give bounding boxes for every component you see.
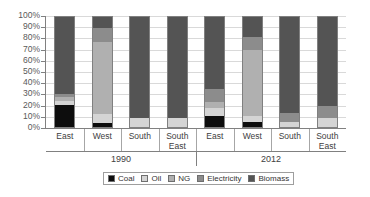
bar-series-container [46, 16, 346, 128]
legend-label: NG [178, 174, 190, 183]
category-label-text: West [243, 131, 262, 141]
y-axis-tick [41, 38, 45, 39]
bar-segment-biomass[interactable] [168, 17, 187, 118]
bar-segment-biomass[interactable] [130, 17, 149, 118]
stacked-bar-chart: 0%10%20%30%40%50%60%70%80%90%100% EastWe… [0, 0, 370, 197]
bar-slot [159, 16, 197, 128]
y-axis-tick-label: 80% [0, 33, 40, 42]
bar-slot [234, 16, 272, 128]
y-axis-tick-label: 20% [0, 101, 40, 110]
bar-segment-electricity[interactable] [318, 106, 337, 118]
y-axis-tick-label: 100% [0, 11, 40, 20]
bar-segment-biomass[interactable] [205, 17, 224, 89]
category-label-text: South [129, 131, 151, 141]
bar-segment-ng[interactable] [205, 102, 224, 109]
stacked-bar[interactable] [54, 16, 75, 128]
category-separator [196, 129, 197, 151]
category-label: South [271, 129, 309, 153]
legend-label: Oil [151, 174, 161, 183]
stacked-bar[interactable] [204, 16, 225, 128]
y-axis-tick-label: 40% [0, 78, 40, 87]
bar-segment-oil[interactable] [93, 114, 112, 123]
bar-segment-oil[interactable] [205, 108, 224, 116]
category-label-text: East [56, 131, 73, 141]
legend-swatch-icon [108, 175, 115, 182]
bar-slot [46, 16, 84, 128]
group-label: 1990 [46, 152, 196, 168]
bar-segment-biomass[interactable] [55, 17, 74, 94]
stacked-bar[interactable] [129, 16, 150, 128]
category-separator [121, 129, 122, 151]
stacked-bar[interactable] [317, 16, 338, 128]
category-separator [309, 129, 310, 151]
bar-segment-biomass[interactable] [243, 17, 262, 37]
legend-item-oil[interactable]: Oil [141, 174, 161, 183]
stacked-bar[interactable] [279, 16, 300, 128]
y-axis-tick [41, 50, 45, 51]
legend-item-electricity[interactable]: Electricity [197, 174, 241, 183]
bar-segment-electricity[interactable] [205, 89, 224, 102]
chart-legend: CoalOilNGElectricityBiomass [103, 172, 294, 185]
category-label-text: East [206, 131, 223, 141]
y-axis-labels: 0%10%20%30%40%50%60%70%80%90%100% [0, 0, 40, 145]
group-label-text: 1990 [111, 154, 131, 164]
legend-swatch-icon [197, 175, 204, 182]
group-label: 2012 [196, 152, 346, 168]
bar-slot [84, 16, 122, 128]
bar-segment-electricity[interactable] [280, 113, 299, 122]
bar-segment-biomass[interactable] [318, 17, 337, 106]
stacked-bar[interactable] [242, 16, 263, 128]
y-axis-tick [41, 27, 45, 28]
bar-segment-biomass[interactable] [93, 17, 112, 28]
legend-label: Coal [118, 174, 134, 183]
legend-label: Electricity [207, 174, 241, 183]
bar-slot [309, 16, 347, 128]
category-label: West [234, 129, 272, 153]
y-axis-tick-label: 0% [0, 123, 40, 132]
legend-swatch-icon [141, 175, 148, 182]
legend-item-coal[interactable]: Coal [108, 174, 134, 183]
bar-segment-electricity[interactable] [243, 37, 262, 50]
bar-segment-biomass[interactable] [280, 17, 299, 113]
y-axis-tick-label: 90% [0, 22, 40, 31]
y-axis-tick [41, 16, 45, 17]
bar-segment-coal[interactable] [93, 123, 112, 127]
y-axis-tick [41, 117, 45, 118]
bar-segment-electricity[interactable] [93, 28, 112, 42]
y-axis-tick-label: 30% [0, 89, 40, 98]
bar-slot [196, 16, 234, 128]
y-axis-tick [41, 61, 45, 62]
bar-segment-ng[interactable] [93, 42, 112, 114]
y-axis-tick-label: 60% [0, 56, 40, 65]
bar-segment-coal[interactable] [205, 116, 224, 127]
group-separator [196, 151, 197, 166]
legend-swatch-icon [168, 175, 175, 182]
y-axis-tick [41, 106, 45, 107]
bar-segment-ng[interactable] [243, 50, 262, 116]
stacked-bar[interactable] [167, 16, 188, 128]
plot-area [46, 16, 346, 128]
legend-swatch-icon [248, 175, 255, 182]
stacked-bar[interactable] [92, 16, 113, 128]
bar-segment-coal[interactable] [243, 122, 262, 128]
category-label: South East [309, 129, 347, 153]
category-label: East [196, 129, 234, 153]
bar-segment-oil[interactable] [130, 118, 149, 127]
category-label: South [121, 129, 159, 153]
bar-segment-oil[interactable] [280, 122, 299, 128]
category-label-text: South East [166, 131, 188, 151]
group-labels: 19902012 [46, 152, 346, 168]
category-label: West [84, 129, 122, 153]
bar-slot [271, 16, 309, 128]
legend-item-ng[interactable]: NG [168, 174, 190, 183]
legend-item-biomass[interactable]: Biomass [248, 174, 289, 183]
group-label-text: 2012 [261, 154, 281, 164]
bar-segment-coal[interactable] [55, 105, 74, 127]
category-label: East [46, 129, 84, 153]
bar-segment-oil[interactable] [168, 118, 187, 127]
bar-segment-oil[interactable] [318, 118, 337, 127]
bar-slot [121, 16, 159, 128]
category-label-text: South [279, 131, 301, 141]
y-axis-tick [41, 128, 45, 129]
legend-label: Biomass [258, 174, 289, 183]
